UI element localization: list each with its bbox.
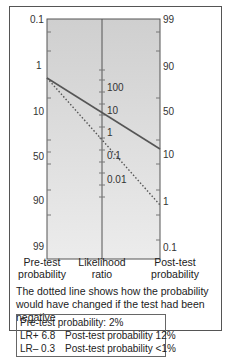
- right-tick: 0.1: [163, 242, 177, 253]
- right-tick: 1: [163, 196, 169, 207]
- mid-tick: 1: [107, 127, 113, 138]
- result-box: Pre-test probability: 2% LR+ 6.8Post-tes…: [16, 314, 166, 357]
- lr-axis-title: Likelihoodratio: [72, 256, 132, 280]
- left-tick: 0.1: [30, 14, 44, 25]
- right-tick: 50: [163, 106, 174, 117]
- right-tick: 99: [163, 14, 174, 25]
- mid-tick: 0.1: [107, 150, 121, 161]
- pretest-probability: Pre-test probability: 2%: [20, 316, 162, 329]
- left-tick: 90: [33, 195, 44, 206]
- positive-posttest: Post-test probability 12%: [65, 330, 176, 341]
- left-tick: 99: [33, 241, 44, 252]
- left-tick: 50: [33, 151, 44, 162]
- right-tick: 10: [163, 149, 174, 160]
- mid-tick: 10: [107, 105, 118, 116]
- left-tick: 1: [36, 60, 42, 71]
- positive-lr: LR+ 6.8: [20, 329, 65, 342]
- mid-tick: 0.01: [107, 174, 126, 185]
- negative-posttest: Post-test probability <1%: [65, 343, 176, 354]
- left-tick: 10: [33, 106, 44, 117]
- posttest-axis-title: Post-testprobability: [144, 256, 206, 280]
- negative-lr: LR– 0.3: [20, 342, 65, 355]
- mid-tick: 100: [107, 82, 124, 93]
- pretest-axis-title: Pre-testprobability: [12, 256, 72, 280]
- right-tick: 90: [163, 61, 174, 72]
